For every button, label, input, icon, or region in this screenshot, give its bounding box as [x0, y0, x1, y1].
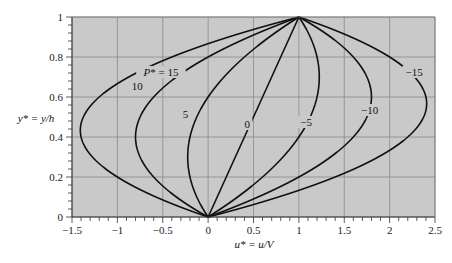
x-tick-label: 0 [205, 224, 211, 236]
curve-label-P-10: 10 [132, 80, 144, 92]
y-tick-label: 0.8 [49, 51, 63, 63]
x-tick-label: 2 [387, 224, 393, 236]
y-tick-label: 1 [58, 11, 64, 23]
curve-label-P--10: −10 [361, 104, 379, 116]
x-tick-label: −1.5 [62, 224, 82, 236]
y-tick-label: 0.2 [49, 171, 63, 183]
curve-label-P--15: −15 [406, 66, 424, 78]
x-tick-label: −0.5 [153, 224, 173, 236]
curve-label-P--5: −5 [300, 116, 312, 128]
x-tick-label: 1 [296, 224, 302, 236]
x-tick-label: 0.5 [247, 224, 261, 236]
curve-label-P-0: 0 [244, 118, 250, 130]
y-tick-label: 0.4 [49, 131, 63, 143]
x-axis-title: u* = u/V [234, 238, 274, 250]
y-tick-label: 0 [58, 211, 64, 223]
curve-label-P-5: 5 [183, 108, 189, 120]
velocity-profile-chart: −1.5−1−0.500.511.522.500.20.40.60.81 P* … [0, 0, 452, 263]
x-tick-label: −1 [112, 224, 124, 236]
x-tick-label: 2.5 [428, 224, 442, 236]
y-tick-label: 0.6 [49, 91, 63, 103]
x-tick-label: 1.5 [337, 224, 351, 236]
curve-label-P-P* = 15: P* = 15 [142, 66, 178, 78]
y-axis-title: y* = y/h [17, 112, 55, 124]
